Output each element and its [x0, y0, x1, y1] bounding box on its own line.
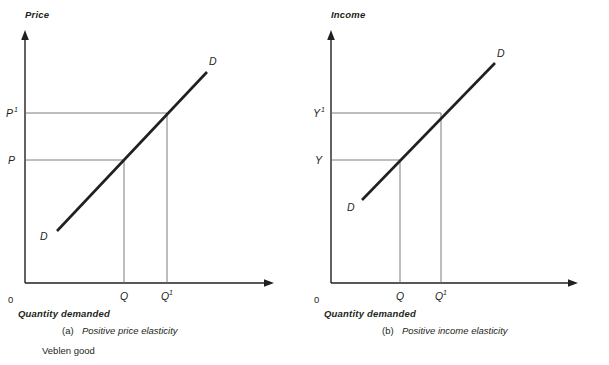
panel-b-caption: Positive income elasticity [402, 325, 509, 336]
panel-b-x-tick-q1-label: Q [435, 290, 443, 302]
panel-b-y-tick-y1: Y 1 [313, 106, 325, 119]
panel-b-y-axis-title: Income [331, 9, 366, 20]
panel-b-y-tick-y1-superscript: 1 [321, 106, 325, 113]
panel-a-caption-prefix: (a) [62, 325, 74, 336]
panel-b-caption-prefix: (b) [382, 325, 394, 336]
panel-a-y-axis-arrow-icon [21, 30, 29, 40]
panel-b-x-tick-q: Q [396, 290, 404, 302]
panel-a-x-axis-arrow-icon [264, 279, 274, 287]
chart-panel-b: Income D D Y Y 1 [313, 9, 578, 336]
panel-b-demand-curve [362, 63, 495, 200]
panel-a-y-axis-title: Price [25, 9, 50, 20]
panel-b-origin-label: 0 [314, 294, 319, 305]
panel-b-y-tick-y-label: Y [315, 154, 323, 166]
panel-a-y-tick-p1-superscript: 1 [14, 106, 18, 113]
panel-a-y-tick-p-label: P [8, 154, 15, 166]
panel-b-y-tick-y1-label: Y [313, 107, 321, 119]
panel-b-demand-label-lower: D [347, 201, 355, 213]
panel-b-x-axis-title: Quantity demanded [324, 308, 416, 319]
panel-a-demand-curve [57, 72, 207, 231]
economics-figure: Price D D P P 1 [0, 0, 609, 365]
panel-a-caption: Positive price elasticity [82, 325, 179, 336]
figure-note: Veblen good [42, 345, 95, 356]
panel-b-x-tick-q1: Q 1 [435, 289, 447, 302]
panel-a-origin-label: 0 [8, 294, 13, 305]
panel-a-demand-label-lower: D [40, 230, 48, 242]
panel-a-demand-label-upper: D [209, 55, 217, 67]
panel-a-x-tick-q-label: Q [120, 290, 128, 302]
panel-b-y-axis-arrow-icon [327, 30, 335, 40]
panel-a-x-tick-q: Q [120, 290, 128, 302]
panel-a-x-tick-q1-label: Q [161, 290, 169, 302]
panel-b-y-tick-y: Y [315, 154, 323, 166]
panel-b-demand-label-upper: D [497, 47, 505, 59]
panel-a-y-tick-p: P [8, 154, 15, 166]
panel-b-x-axis-arrow-icon [568, 279, 578, 287]
chart-panel-a: Price D D P P 1 [6, 9, 274, 336]
panel-a-y-tick-p1-label: P [6, 107, 13, 119]
panel-b-x-tick-q1-superscript: 1 [443, 289, 447, 296]
panel-a-x-tick-q1-superscript: 1 [169, 289, 173, 296]
panel-a-y-tick-p1: P 1 [6, 106, 18, 119]
panel-a-x-axis-title: Quantity demanded [18, 308, 110, 319]
panel-a-x-tick-q1: Q 1 [161, 289, 173, 302]
panel-b-x-tick-q-label: Q [396, 290, 404, 302]
